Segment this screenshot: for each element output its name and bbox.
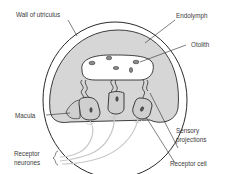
label-receptor-neurones-line2: neurones: [14, 159, 40, 166]
neurone-brace: [53, 151, 58, 165]
label-endolymph: Endolymph: [176, 12, 208, 19]
utriculus-diagram: [0, 0, 227, 174]
label-sensory-projections-line1: Sensory: [176, 127, 199, 134]
label-receptor-neurones-line1: Receptor: [14, 150, 40, 157]
label-macula: Macula: [15, 112, 35, 119]
label-receptor-cell: Receptor cell: [170, 160, 207, 167]
label-wall-of-utriculus: Wall of utriculus: [16, 11, 60, 18]
label-otolith: Otolith: [191, 41, 209, 48]
label-sensory-projections-line2: projections: [176, 136, 206, 143]
